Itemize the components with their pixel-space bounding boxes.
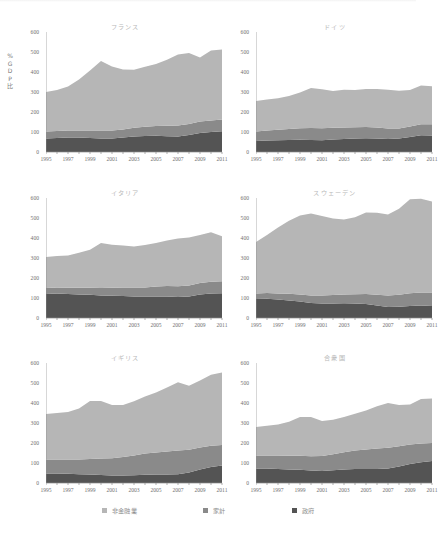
y-tick-label: 300 bbox=[22, 420, 39, 426]
legend-item-0[interactable]: 非金融業 bbox=[102, 506, 137, 515]
y-tick-label: 0 bbox=[22, 480, 39, 486]
legend-item-1[interactable]: 家計 bbox=[203, 506, 226, 515]
y-axis-title-char-3: P bbox=[4, 75, 16, 83]
panel-title: ドイツ bbox=[232, 22, 438, 31]
y-tick-label: 0 bbox=[232, 315, 249, 321]
x-tick-label: 2003 bbox=[333, 322, 355, 328]
x-tick-label: 2001 bbox=[311, 322, 333, 328]
y-axis-title-char-2: D bbox=[4, 67, 16, 75]
x-tick-label: 2009 bbox=[399, 487, 421, 493]
x-tick-label: 1995 bbox=[245, 487, 267, 493]
y-tick-label: 0 bbox=[232, 149, 249, 155]
x-tick-label: 2001 bbox=[101, 487, 123, 493]
x-tick-label: 2009 bbox=[399, 322, 421, 328]
x-tick-label: 2003 bbox=[333, 156, 355, 162]
chart-panel-5: 合衆国0100200300400500600199519971999200120… bbox=[232, 353, 438, 501]
x-tick-label: 2011 bbox=[211, 322, 233, 328]
y-tick-label: 600 bbox=[232, 29, 249, 35]
x-tick-label: 1995 bbox=[245, 322, 267, 328]
plot-area bbox=[46, 32, 224, 154]
x-tick-label: 2003 bbox=[123, 156, 145, 162]
y-tick-label: 200 bbox=[22, 275, 39, 281]
y-tick-label: 200 bbox=[232, 109, 249, 115]
x-tick-label: 2003 bbox=[333, 487, 355, 493]
x-tick-label: 1995 bbox=[35, 487, 57, 493]
y-tick-label: 400 bbox=[22, 400, 39, 406]
x-tick-label: 2007 bbox=[377, 322, 399, 328]
chart-panel-1: ドイツ0100200300400500600199519971999200120… bbox=[232, 22, 438, 170]
area-band-政府 bbox=[46, 293, 222, 318]
x-tick-label: 2009 bbox=[189, 156, 211, 162]
x-tick-label: 2001 bbox=[311, 487, 333, 493]
x-tick-label: 2005 bbox=[355, 156, 377, 162]
y-tick-label: 400 bbox=[22, 69, 39, 75]
x-tick-label: 2007 bbox=[167, 322, 189, 328]
y-tick-label: 100 bbox=[232, 295, 249, 301]
y-tick-label: 200 bbox=[22, 440, 39, 446]
legend-item-2[interactable]: 政府 bbox=[292, 506, 315, 515]
panel-title: 合衆国 bbox=[232, 353, 438, 362]
y-axis-title-char-0: % bbox=[4, 52, 16, 60]
x-tick-label: 2003 bbox=[123, 322, 145, 328]
y-axis-title: %GDP比 bbox=[4, 52, 16, 90]
y-tick-label: 400 bbox=[232, 69, 249, 75]
x-tick-label: 2005 bbox=[145, 156, 167, 162]
panel-title: フランス bbox=[22, 22, 228, 31]
x-tick-label: 1997 bbox=[57, 156, 79, 162]
x-tick-label: 1995 bbox=[35, 156, 57, 162]
x-tick-label: 2009 bbox=[189, 487, 211, 493]
y-tick-label: 300 bbox=[232, 255, 249, 261]
y-tick-label: 600 bbox=[22, 195, 39, 201]
x-tick-label: 2001 bbox=[101, 322, 123, 328]
x-tick-label: 1997 bbox=[267, 487, 289, 493]
area-band-非金融業 bbox=[46, 232, 222, 288]
y-tick-label: 500 bbox=[232, 215, 249, 221]
x-tick-label: 1995 bbox=[35, 322, 57, 328]
x-tick-label: 2001 bbox=[101, 156, 123, 162]
y-tick-label: 500 bbox=[232, 49, 249, 55]
x-tick-label: 2011 bbox=[421, 156, 442, 162]
y-tick-label: 100 bbox=[232, 129, 249, 135]
legend-label: 非金融業 bbox=[112, 506, 137, 515]
plot-area bbox=[46, 363, 224, 485]
x-tick-label: 2007 bbox=[167, 487, 189, 493]
y-tick-label: 500 bbox=[232, 380, 249, 386]
panel-title: イギリス bbox=[22, 353, 228, 362]
x-tick-label: 2011 bbox=[211, 487, 233, 493]
y-tick-label: 600 bbox=[232, 195, 249, 201]
x-tick-label: 2005 bbox=[355, 487, 377, 493]
x-tick-label: 1999 bbox=[289, 487, 311, 493]
y-tick-label: 400 bbox=[232, 400, 249, 406]
x-tick-label: 2005 bbox=[355, 322, 377, 328]
y-tick-label: 300 bbox=[22, 89, 39, 95]
y-tick-label: 500 bbox=[22, 49, 39, 55]
plot-area bbox=[256, 363, 434, 485]
x-tick-label: 1999 bbox=[289, 156, 311, 162]
y-tick-label: 100 bbox=[22, 129, 39, 135]
y-tick-label: 400 bbox=[22, 235, 39, 241]
x-tick-label: 2005 bbox=[145, 487, 167, 493]
figure-top-edge bbox=[0, 0, 416, 2]
x-tick-label: 2003 bbox=[123, 487, 145, 493]
x-tick-label: 2001 bbox=[311, 156, 333, 162]
y-axis-title-char-1: G bbox=[4, 60, 16, 68]
y-tick-label: 200 bbox=[232, 275, 249, 281]
area-band-非金融業 bbox=[46, 50, 222, 132]
y-axis-title-char-4: 比 bbox=[4, 82, 16, 90]
y-tick-label: 500 bbox=[22, 215, 39, 221]
chart-panel-2: イタリア010020030040050060019951997199920012… bbox=[22, 188, 228, 336]
x-tick-label: 2007 bbox=[167, 156, 189, 162]
y-tick-label: 600 bbox=[22, 29, 39, 35]
panel-title: イタリア bbox=[22, 188, 228, 197]
legend-label: 家計 bbox=[213, 506, 226, 515]
x-tick-label: 1997 bbox=[57, 487, 79, 493]
x-tick-label: 1997 bbox=[267, 156, 289, 162]
plot-area bbox=[256, 32, 434, 154]
plot-area bbox=[256, 198, 434, 320]
chart-panel-0: フランス010020030040050060019951997199920012… bbox=[22, 22, 228, 170]
x-tick-label: 2009 bbox=[189, 322, 211, 328]
x-tick-label: 2011 bbox=[421, 322, 442, 328]
x-tick-label: 2011 bbox=[421, 487, 442, 493]
y-tick-label: 600 bbox=[232, 360, 249, 366]
